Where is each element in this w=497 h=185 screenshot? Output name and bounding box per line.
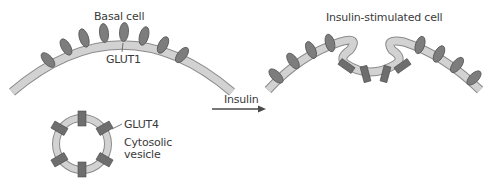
- glut4-transporters-vesicle: [51, 111, 113, 177]
- stimulated-cell-title: Insulin-stimulated cell: [326, 12, 442, 24]
- insulin-arrow-label: Insulin: [224, 94, 259, 106]
- glut4-pointer: [112, 124, 122, 129]
- stimulated-cell-membrane: [268, 40, 480, 90]
- vesicle-label-line2: vesicle: [124, 149, 161, 161]
- basal-cell-title: Basal cell: [94, 11, 144, 23]
- insulin-arrow: [212, 106, 266, 113]
- glut4-label: GLUT4: [124, 119, 159, 131]
- glut1-label: GLUT1: [106, 54, 141, 66]
